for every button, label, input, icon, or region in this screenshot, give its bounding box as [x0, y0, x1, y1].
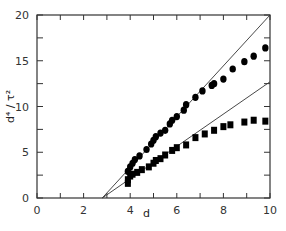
square-marker [183, 141, 189, 148]
x-tick-label: 2 [80, 204, 87, 217]
square-marker [162, 151, 168, 158]
square-marker [202, 130, 208, 137]
circle-marker [143, 146, 149, 153]
square-marker [227, 121, 233, 128]
circle-marker [220, 75, 226, 82]
circle-marker [199, 87, 205, 94]
y-tick-label: 15 [15, 55, 29, 68]
scatter-chart: 024681005101520dd⁴ / τ² [0, 0, 286, 231]
x-axis-label: d [143, 207, 150, 220]
square-marker [241, 119, 247, 126]
y-axis-label: d⁴ / τ² [4, 90, 17, 123]
axis-labels: 024681005101520dd⁴ / τ² [4, 9, 277, 220]
y-tick-label: 5 [22, 146, 29, 159]
y-tick-label: 10 [15, 101, 29, 114]
circle-marker [136, 152, 142, 159]
circle-marker [262, 44, 268, 51]
x-tick-label: 8 [220, 204, 227, 217]
circle-marker [211, 80, 217, 87]
square-marker [139, 166, 145, 173]
x-tick-label: 4 [127, 204, 134, 217]
square-marker [211, 127, 217, 134]
circle-marker [250, 53, 256, 60]
x-tick-label: 0 [34, 204, 41, 217]
square-marker [262, 118, 268, 125]
x-tick-label: 10 [263, 204, 277, 217]
square-marker [174, 144, 180, 151]
circle-marker [183, 101, 189, 108]
y-tick-label: 0 [22, 192, 29, 205]
x-tick-label: 6 [173, 204, 180, 217]
circle-marker [162, 127, 168, 134]
circle-marker [192, 94, 198, 101]
circle-marker [174, 113, 180, 120]
y-tick-label: 20 [15, 9, 29, 22]
data-points [125, 44, 269, 187]
square-marker [251, 117, 257, 124]
circle-marker [241, 58, 247, 65]
square-marker [192, 134, 198, 141]
circle-marker [230, 65, 236, 72]
square-marker [220, 123, 226, 130]
